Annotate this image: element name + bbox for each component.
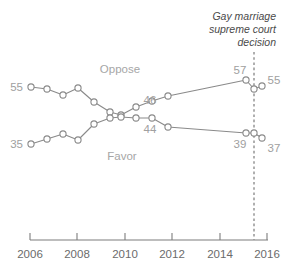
- data-point: [259, 83, 265, 89]
- data-point: [133, 115, 139, 121]
- data-point: [251, 86, 257, 92]
- value-labels: 55 35 46 44 57 39 55 37: [10, 64, 280, 154]
- data-point: [60, 92, 66, 98]
- annotation-line-2: supreme court: [209, 23, 277, 35]
- data-point: [149, 115, 155, 121]
- data-point: [44, 136, 50, 142]
- value-label-favor-2006: 35: [10, 138, 23, 150]
- annotation-gay-marriage-decision: Gay marriage supreme court decision: [209, 10, 277, 48]
- data-point: [243, 77, 249, 83]
- data-point: [118, 114, 124, 120]
- data-point: [28, 141, 34, 147]
- data-point: [107, 115, 113, 121]
- x-axis-tick-label-2012: 2012: [159, 248, 185, 260]
- data-point: [165, 124, 171, 130]
- data-point: [243, 130, 249, 136]
- value-label-oppose-2006: 55: [10, 81, 23, 93]
- data-point: [133, 104, 139, 110]
- data-point: [251, 130, 257, 136]
- line-chart: Gay marriage supreme court decision: [0, 0, 296, 272]
- x-axis-tick-label-2006: 2006: [17, 248, 43, 260]
- value-label-oppose-2016: 55: [268, 74, 281, 86]
- data-point: [107, 109, 113, 115]
- value-label-oppose-2011: 46: [144, 94, 157, 106]
- data-point: [28, 84, 34, 90]
- value-label-favor-2011: 44: [144, 123, 157, 135]
- data-point: [60, 131, 66, 137]
- x-axis-tick-label-2014: 2014: [207, 248, 233, 260]
- x-axis: 2006 2008 2010 2012 2014 2016: [17, 233, 280, 260]
- x-axis-tick-label-2016: 2016: [254, 248, 280, 260]
- data-point: [75, 85, 81, 91]
- series-label-favor: Favor: [107, 150, 137, 162]
- data-point: [91, 121, 97, 127]
- data-point: [259, 135, 265, 141]
- data-point: [91, 99, 97, 105]
- value-label-favor-2015: 39: [234, 138, 247, 150]
- x-axis-tick-label-2008: 2008: [64, 248, 90, 260]
- annotation-line-3: decision: [237, 36, 276, 48]
- data-point: [75, 137, 81, 143]
- data-point: [44, 86, 50, 92]
- data-point: [165, 93, 171, 99]
- x-axis-tick-label-2010: 2010: [112, 248, 138, 260]
- series-label-oppose: Oppose: [100, 63, 140, 75]
- value-label-favor-2016: 37: [268, 142, 281, 154]
- value-label-oppose-2015: 57: [234, 64, 247, 76]
- annotation-line-1: Gay marriage: [212, 10, 276, 22]
